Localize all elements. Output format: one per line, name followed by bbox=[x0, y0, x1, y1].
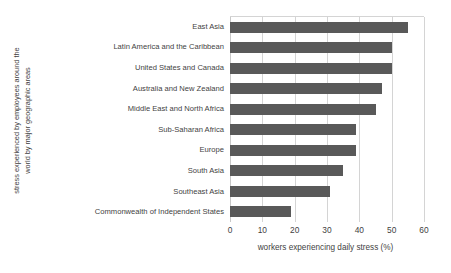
y-axis-tick-label: Sub-Saharan Africa bbox=[42, 119, 228, 140]
plot-area bbox=[230, 16, 424, 222]
gridline bbox=[424, 17, 425, 222]
bar bbox=[230, 165, 343, 176]
y-axis-tick-label: Commonwealth of Independent States bbox=[42, 201, 228, 222]
y-axis-tick-label: Latin America and the Caribbean bbox=[42, 37, 228, 58]
y-axis-tick-label: Southeast Asia bbox=[42, 181, 228, 202]
bar-row bbox=[230, 202, 424, 223]
y-axis-tick-label: Australia and New Zealand bbox=[42, 78, 228, 99]
bar-row bbox=[230, 58, 424, 79]
bar bbox=[230, 104, 376, 115]
bar bbox=[230, 145, 356, 156]
y-axis-title: stress experienced by employees around t… bbox=[0, 0, 44, 240]
y-axis-tick-label: United States and Canada bbox=[42, 57, 228, 78]
y-axis-category-labels: East Asia Latin America and the Caribbea… bbox=[42, 16, 228, 222]
bar bbox=[230, 124, 356, 135]
x-axis-tick-label: 60 bbox=[419, 224, 428, 236]
y-axis-tick-label: South Asia bbox=[42, 160, 228, 181]
bar-row bbox=[230, 181, 424, 202]
x-axis-tick-label: 50 bbox=[387, 224, 396, 236]
y-axis-title-line-2: world by major geographic areas bbox=[22, 47, 33, 193]
bar bbox=[230, 83, 382, 94]
x-axis-tick-label: 30 bbox=[322, 224, 331, 236]
y-axis-tick-label: Middle East and North Africa bbox=[42, 98, 228, 119]
x-axis-tick-labels: 0102030405060 bbox=[230, 224, 424, 238]
bar-row bbox=[230, 17, 424, 38]
x-axis-tick-label: 0 bbox=[228, 224, 233, 236]
x-axis-tick-label: 40 bbox=[355, 224, 364, 236]
x-axis-tick-label: 10 bbox=[258, 224, 267, 236]
x-axis-title: workers experiencing daily stress (%) bbox=[200, 242, 451, 253]
bar-row bbox=[230, 161, 424, 182]
x-axis-tick-label: 20 bbox=[290, 224, 299, 236]
bar-row bbox=[230, 140, 424, 161]
bar-row bbox=[230, 79, 424, 100]
bar bbox=[230, 42, 392, 53]
y-axis-tick-label: East Asia bbox=[42, 16, 228, 37]
bar bbox=[230, 22, 408, 33]
bar-row bbox=[230, 120, 424, 141]
y-axis-tick-label: Europe bbox=[42, 140, 228, 161]
bar-series bbox=[230, 17, 424, 222]
bar bbox=[230, 63, 392, 74]
bar-row bbox=[230, 99, 424, 120]
bar bbox=[230, 206, 291, 217]
bar-chart: stress experienced by employees around t… bbox=[0, 0, 451, 273]
bar bbox=[230, 186, 330, 197]
bar-row bbox=[230, 38, 424, 59]
y-axis-title-line-1: stress experienced by employees around t… bbox=[12, 47, 23, 193]
